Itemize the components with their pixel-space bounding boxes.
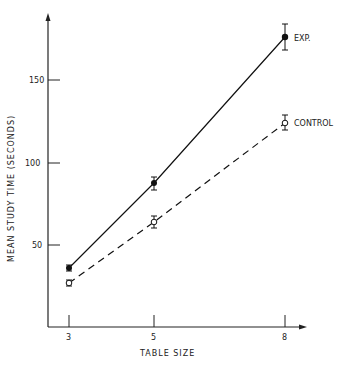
exp-error-bars [66, 24, 288, 271]
control-point [151, 219, 157, 225]
control-label: CONTROL [294, 119, 334, 128]
x-tick-3: 3 [66, 333, 71, 342]
x-tick-5: 5 [151, 333, 156, 342]
control-line [69, 123, 285, 283]
exp-point [151, 180, 157, 186]
control-point [282, 120, 288, 126]
x-tick-8: 8 [282, 333, 287, 342]
y-tick-150: 150 [29, 76, 44, 85]
y-axis-arrow-icon [46, 13, 51, 21]
exp-point [282, 34, 288, 40]
y-tick-50: 50 [32, 241, 42, 250]
exp-point [66, 265, 72, 271]
exp-line [69, 37, 285, 268]
y-axis-label: MEAN STUDY TIME (SECONDS) [7, 115, 16, 262]
y-tick-100: 100 [25, 159, 40, 168]
x-axis-label: TABLE SIZE [139, 349, 195, 358]
exp-label: EXP. [294, 34, 311, 43]
control-error-bars [66, 115, 288, 286]
control-point [66, 280, 72, 286]
x-axis-arrow-icon [299, 325, 307, 330]
line-chart: 150 100 50 3 5 8 TABLE SIZE MEAN STUDY T… [0, 0, 347, 366]
